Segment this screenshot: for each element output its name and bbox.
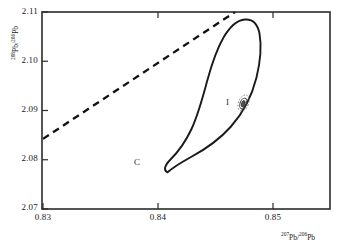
- x-axis-ticks: [43, 12, 273, 209]
- reference-dashed-line: [43, 12, 235, 139]
- y-axis-ticks: [42, 12, 48, 209]
- lead-isotope-scatter-figure: 208Pb/206Pb 207Pb/206Pb 2.11 2.10 2.09 2…: [0, 0, 346, 248]
- plot-canvas: [0, 0, 346, 248]
- contour-outline-c: [165, 19, 261, 172]
